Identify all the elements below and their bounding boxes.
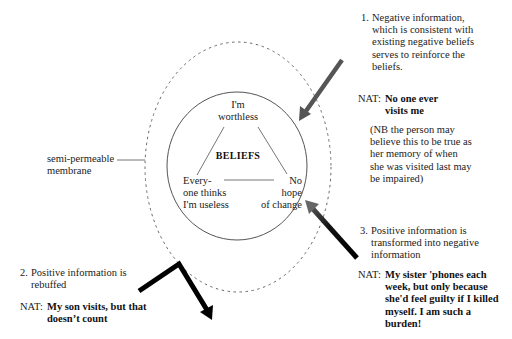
point-1-line: which is consistent with — [361, 24, 474, 36]
nat-label: NAT: — [358, 93, 385, 105]
nat-thought-line: visits me — [358, 105, 438, 117]
nat-thought-line: week, but only because — [358, 281, 498, 293]
note-line: (NB the person may — [370, 124, 472, 136]
membrane-ellipse — [145, 42, 331, 292]
belief-everyone-line: Every- — [183, 175, 229, 187]
nat-thought-line: My son visits, but that — [47, 301, 146, 313]
belief-worthless-line: I'm — [213, 99, 263, 111]
membrane-label-line: membrane — [47, 165, 114, 177]
point-2-nat: NAT:My son visits, but that doesn’t coun… — [20, 301, 146, 325]
belief-nohope-line: No — [250, 175, 302, 187]
nat-label: NAT: — [20, 301, 47, 313]
note-line: she was visited last may — [370, 161, 472, 173]
membrane-label: semi-permeable membrane — [47, 153, 114, 177]
point-1-line: serves to reinforce the — [361, 49, 474, 61]
point-2-line: Positive information is — [31, 267, 127, 279]
note-line: be impaired) — [370, 173, 472, 185]
membrane-label-line: semi-permeable — [47, 153, 114, 165]
nat-thought-line: No one ever — [385, 93, 438, 105]
note-line: her memory of when — [370, 148, 472, 160]
point-number: 2. — [20, 267, 31, 279]
point-number: 3. — [360, 225, 371, 237]
point-3-line: transformed into negative — [360, 237, 479, 249]
belief-nohope-line: hope — [250, 187, 302, 199]
belief-everyone-line: I'm useless — [183, 199, 229, 211]
point-1-line: existing negative beliefs — [361, 36, 474, 48]
belief-everyone-line: one thinks — [183, 187, 229, 199]
point-2: 2.Positive information is rebuffed — [20, 267, 127, 291]
nat-thought-line: My sister 'phones each — [385, 269, 487, 281]
point-1-note: (NB the person may believe this to be tr… — [370, 124, 472, 185]
point-2-line: rebuffed — [20, 279, 127, 291]
belief-worthless-line: worthless — [213, 111, 263, 123]
arrow-negative-info-icon — [299, 60, 342, 121]
belief-nohope-line: of change — [250, 199, 302, 211]
point-3-line: information — [360, 249, 479, 261]
nat-label: NAT: — [358, 269, 385, 281]
point-1: 1.Negative information, which is consist… — [361, 12, 474, 73]
point-1-line: Negative information, — [372, 12, 465, 24]
belief-worthless: I'm worthless — [213, 99, 263, 123]
point-3-line: Positive information is — [371, 225, 467, 237]
note-line: believe this to be true as — [370, 136, 472, 148]
belief-no-hope: No hope of change — [250, 175, 302, 212]
nat-thought-line: myself. I am such a — [358, 306, 498, 318]
point-3-nat: NAT:My sister 'phones each week, but onl… — [358, 269, 498, 330]
arrow-rebuffed-info-icon — [139, 264, 213, 320]
point-1-nat: NAT:No one ever visits me — [358, 93, 438, 117]
belief-everyone-useless: Every- one thinks I'm useless — [183, 175, 229, 212]
point-number: 1. — [361, 12, 372, 24]
nat-thought-line: burden! — [358, 318, 498, 330]
point-3: 3.Positive information is transformed in… — [360, 225, 479, 262]
nat-thought-line: she'd feel guilty if I killed — [358, 293, 498, 305]
beliefs-title: BELIEFS — [208, 150, 268, 162]
nat-thought-line: doesn’t count — [20, 313, 146, 325]
point-1-line: beliefs. — [361, 61, 474, 73]
arrow-transformed-info-icon — [305, 200, 357, 258]
